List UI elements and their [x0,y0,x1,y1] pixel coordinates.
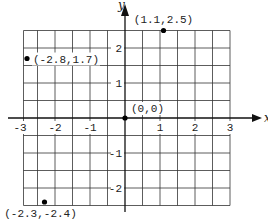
x-tick-label: 1 [157,122,164,134]
x-tick-label: 2 [192,122,199,134]
x-tick-label: -3 [13,122,26,134]
x-tick-label: -2 [48,122,61,134]
x-axis-label: x [264,111,268,125]
point-label: (-2.3,-2.4) [4,208,77,220]
coordinate-plane: x y -3-2-112321-1-2 (-2.8,1.7)(1.1,2.5)(… [0,0,268,222]
data-point [24,56,29,61]
data-point [42,199,47,204]
y-tick-label: 1 [115,78,122,90]
point-label: (1.1,2.5) [134,14,193,26]
point-label: (0,0) [131,103,164,115]
y-tick-label: 2 [115,43,122,55]
data-points: (-2.8,1.7)(1.1,2.5)(0,0)(-2.3,-2.4) [4,14,193,221]
x-tick-label: -1 [83,122,97,134]
point-label: (-2.8,1.7) [33,54,99,66]
y-axis-label: y [117,0,125,12]
data-point [161,28,166,33]
x-tick-label: 3 [227,122,234,134]
x-axis-arrow-icon [252,114,262,122]
data-point [122,115,127,120]
y-tick-label: -2 [109,183,122,195]
y-tick-label: -1 [109,148,123,160]
